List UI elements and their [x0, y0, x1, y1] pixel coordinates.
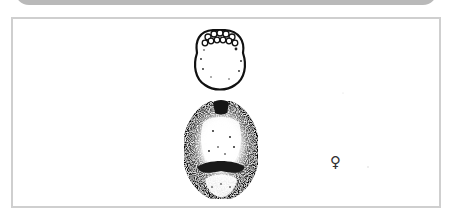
spider-illustration	[13, 19, 439, 206]
female-symbol-icon: ♀	[330, 155, 341, 170]
abdomen	[184, 100, 258, 199]
cephalothorax	[195, 30, 245, 90]
figure-frame: ♀	[11, 17, 441, 208]
header-bar	[15, 0, 437, 5]
